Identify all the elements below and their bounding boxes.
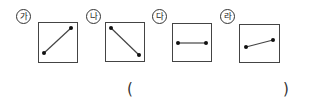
endpoint-dot-icon [69, 26, 73, 30]
segment-ra [246, 40, 273, 47]
segment-na [111, 28, 139, 55]
answer-blank[interactable] [140, 82, 280, 100]
segment-ga [44, 28, 71, 53]
endpoint-dot-icon [271, 38, 275, 42]
endpoint-dot-icon [176, 41, 180, 45]
endpoint-dot-icon [244, 45, 248, 49]
answer-close-paren: ) [283, 80, 289, 98]
endpoint-dot-icon [204, 41, 208, 45]
endpoint-dot-icon [137, 53, 141, 57]
endpoint-dot-icon [42, 51, 46, 55]
endpoint-dot-icon [109, 26, 113, 30]
answer-open-paren: ( [127, 80, 133, 98]
